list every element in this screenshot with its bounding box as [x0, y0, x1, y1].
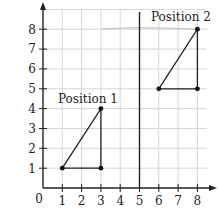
y-tick-8: 8: [28, 23, 36, 37]
x-tick-6: 6: [155, 194, 163, 208]
x-tick-5: 5: [136, 194, 144, 208]
y-tick-5: 5: [28, 82, 36, 96]
y-tick-labels: 1 2 3 4 5 6 7 8: [28, 23, 36, 176]
x-tick-1: 1: [58, 194, 66, 208]
y-tick-1: 1: [28, 162, 36, 176]
y-tick-4: 4: [28, 102, 36, 116]
coordinate-grid: 0 1 2 3 4 5 6 7 8 1 2 3 4 5 6 7 8 Positi…: [0, 0, 218, 209]
y-tick-2: 2: [28, 142, 36, 156]
origin-label: 0: [35, 192, 43, 206]
x-tick-4: 4: [116, 194, 124, 208]
x-tick-3: 3: [97, 194, 105, 208]
y-tick-6: 6: [28, 62, 36, 76]
x-tick-7: 7: [174, 194, 182, 208]
x-axis-arrow-icon: [209, 185, 217, 191]
y-axis-arrow-icon: [40, 2, 46, 10]
x-tick-2: 2: [78, 194, 86, 208]
x-tick-labels: 0 1 2 3 4 5 6 7 8: [35, 192, 201, 208]
y-tick-3: 3: [28, 122, 36, 136]
position-2-label: Position 2: [151, 10, 211, 24]
y-tick-7: 7: [28, 42, 36, 56]
position-1-label: Position 1: [58, 92, 118, 106]
x-tick-8: 8: [194, 194, 202, 208]
